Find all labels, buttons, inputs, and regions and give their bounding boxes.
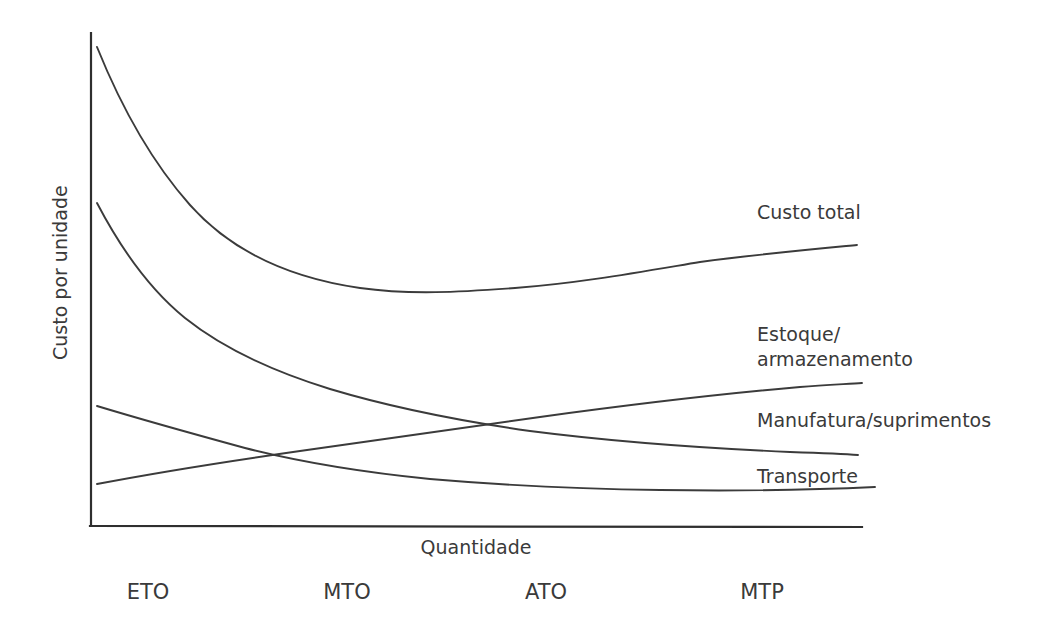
- series-label-custo-total: Custo total: [757, 201, 861, 223]
- series-label-manufatura-suprimentos: Manufatura/suprimentos: [757, 409, 991, 431]
- chart-canvas: Custo por unidade Quantidade Custo total…: [0, 0, 1052, 628]
- series-line-transporte: [97, 383, 862, 484]
- series-label-estoque-line1: Estoque/: [757, 323, 841, 345]
- category-label-eto: ETO: [127, 580, 170, 604]
- category-label-ato: ATO: [525, 580, 567, 604]
- x-axis-title: Quantidade: [421, 536, 532, 558]
- series-line-estoque-armazenamento: [97, 203, 858, 455]
- series-label-transporte: Transporte: [756, 465, 858, 487]
- category-label-mtp: MTP: [740, 580, 784, 604]
- category-label-mto: MTO: [323, 580, 370, 604]
- x-axis-line: [90, 526, 862, 527]
- cost-curve-chart: Custo por unidade Quantidade Custo total…: [0, 0, 1052, 628]
- series-label-estoque-line2: armazenamento: [757, 348, 913, 370]
- series-line-custo-total: [97, 47, 857, 292]
- y-axis-title: Custo por unidade: [49, 185, 71, 360]
